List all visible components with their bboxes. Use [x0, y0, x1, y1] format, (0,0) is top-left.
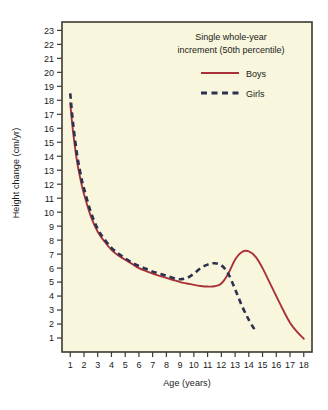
y-tick-label: 19 [44, 82, 54, 92]
y-axis-title: Height change (cm/yr) [11, 113, 21, 233]
plot-background-group [62, 22, 312, 352]
x-tick-label: 18 [299, 360, 309, 370]
x-tick-label: 6 [136, 360, 141, 370]
y-tick-label: 2 [49, 319, 54, 329]
x-tick-label: 10 [189, 360, 199, 370]
y-tick-label: 8 [49, 236, 54, 246]
y-tick-label: 22 [44, 40, 54, 50]
y-tick-label: 21 [44, 54, 54, 64]
x-tick-label: 5 [123, 360, 128, 370]
x-tick-label: 17 [285, 360, 295, 370]
x-tick-label: 3 [95, 360, 100, 370]
legend-title-line1: Single whole-year [195, 32, 267, 42]
x-tick-label: 7 [150, 360, 155, 370]
y-tick-label: 7 [49, 250, 54, 260]
x-tick-label: 8 [164, 360, 169, 370]
chart-plot-area: 1234567891011121314151617181920212223 12… [0, 0, 328, 410]
x-tick-label: 4 [109, 360, 114, 370]
x-tick-label: 1 [68, 360, 73, 370]
y-tick-label: 17 [44, 110, 54, 120]
y-tick-label: 11 [45, 194, 54, 204]
y-tick-label: 1 [49, 333, 54, 343]
plot-background [62, 22, 312, 352]
y-tick-label: 5 [49, 277, 54, 287]
legend-title-line2: increment (50th percentile) [177, 45, 284, 55]
x-axis-tick-labels: 123456789101112131415161718 [68, 360, 309, 370]
x-tick-label: 15 [258, 360, 268, 370]
y-tick-label: 12 [44, 180, 54, 190]
y-tick-label: 10 [44, 208, 54, 218]
y-tick-label: 14 [44, 152, 54, 162]
growth-velocity-chart: Height change (cm/yr) Age (years) 123456… [0, 0, 328, 410]
y-tick-label: 9 [49, 222, 54, 232]
x-tick-label: 16 [271, 360, 281, 370]
x-axis-title: Age (years) [62, 378, 312, 388]
y-tick-label: 6 [49, 264, 54, 274]
x-tick-label: 13 [230, 360, 240, 370]
y-axis-tick-labels: 1234567891011121314151617181920212223 [44, 26, 54, 344]
y-tick-label: 13 [44, 166, 54, 176]
y-tick-label: 4 [49, 291, 54, 301]
legend-label-boys: Boys [246, 69, 267, 79]
y-tick-label: 23 [44, 26, 54, 36]
y-tick-label: 20 [44, 68, 54, 78]
x-tick-label: 11 [203, 360, 212, 370]
y-tick-label: 3 [49, 305, 54, 315]
x-tick-label: 2 [81, 360, 86, 370]
legend-label-girls: Girls [246, 89, 265, 99]
x-tick-label: 9 [178, 360, 183, 370]
x-tick-label: 12 [216, 360, 226, 370]
y-tick-label: 16 [44, 124, 54, 134]
x-tick-label: 14 [244, 360, 254, 370]
y-tick-label: 15 [44, 138, 54, 148]
y-tick-label: 18 [44, 96, 54, 106]
